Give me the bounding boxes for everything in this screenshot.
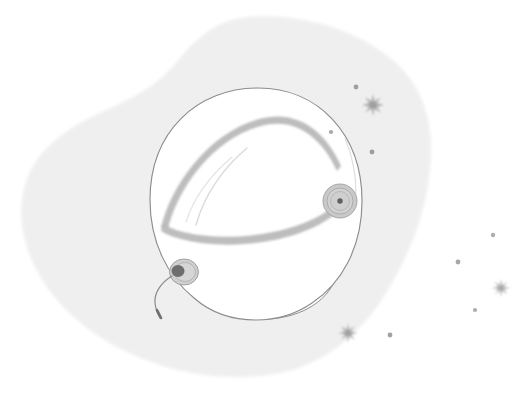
space-helmet-artwork xyxy=(0,0,523,399)
dot-5 xyxy=(456,260,461,265)
illustration-canvas: Astronaut Space Helmet Illustration xyxy=(0,0,523,399)
dot-6 xyxy=(473,308,477,312)
dot-4 xyxy=(491,233,495,237)
dot-7 xyxy=(388,333,393,338)
left-earpiece xyxy=(170,259,199,285)
dot-3 xyxy=(370,150,375,155)
right-knob xyxy=(323,184,357,218)
dot-1 xyxy=(354,85,359,90)
astronaut-helmet xyxy=(150,88,362,320)
dot-2 xyxy=(329,130,333,134)
